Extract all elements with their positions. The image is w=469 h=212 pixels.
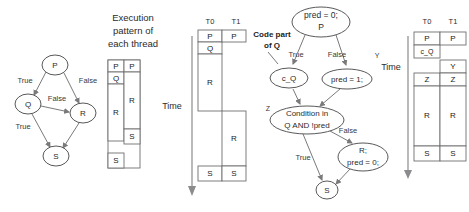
cell-t0-r: R [424, 111, 430, 120]
node-s-label: S [324, 186, 329, 195]
cell-t1-r: R [129, 96, 135, 105]
cell-t1-z: Z [451, 75, 456, 84]
time-axis-middle: Time [162, 36, 196, 196]
caption-line-1: Execution [112, 12, 154, 23]
edge-label-true-cq: True [288, 50, 303, 59]
cell-t1-y: Y [450, 62, 456, 71]
cell-t0-s: S [207, 169, 212, 178]
edge-cq-to-cond [293, 89, 300, 104]
edge-label-q-r: False [48, 94, 66, 103]
edge-r-to-s [336, 169, 350, 184]
annotation-line-2: of Q [264, 41, 280, 50]
node-r-label: R [80, 109, 86, 118]
column-header-t1: T1 [232, 17, 241, 26]
figure-canvas: P Q R S True False False True Execution … [0, 0, 469, 212]
node-pred-assign-label: pred = 1; [331, 75, 363, 84]
cell-t1-p: P [129, 62, 134, 71]
cell-t1-s: S [450, 149, 455, 158]
node-condition-line-2: Q AND !pred [284, 121, 329, 130]
time-axis-middle-arrow [188, 186, 196, 196]
cell-t0-q: Q [113, 74, 119, 83]
edge-label-y: Y [375, 52, 380, 59]
annotation-leader-line [268, 52, 278, 64]
node-p-line-2: P [318, 22, 324, 32]
edge-label-p-r: False [79, 76, 97, 85]
node-c-q-label: c_Q [282, 74, 297, 83]
node-s-label: S [53, 152, 58, 161]
edge-label-p-q: True [17, 76, 32, 85]
execution-pattern-table: P Q R S P R S [108, 60, 140, 168]
node-condition-line-1: Condition in [286, 109, 328, 118]
time-axis-right-label: Time [381, 62, 401, 72]
cell-t0-c-q: c_Q [421, 48, 434, 56]
edge-q-to-s [32, 114, 50, 147]
time-axis-right-arrow [404, 170, 412, 179]
panel-right-cfg: Code part of Q pred = 0; P c_Q pred = 1;… [253, 7, 388, 199]
cell-t0-p: P [113, 62, 118, 71]
cell-t0-p: P [207, 32, 212, 41]
panel-left-cfg: P Q R S True False False True [15, 55, 97, 166]
cell-t0-z: Z [425, 75, 430, 84]
node-p-label: P [52, 61, 57, 70]
diagram-svg: P Q R S True False False True Execution … [0, 0, 469, 212]
column-header-t0: T0 [423, 17, 432, 26]
edge-p-to-q [34, 72, 46, 95]
edge-label-q-s: True [15, 122, 30, 131]
time-axis-middle-label: Time [162, 101, 182, 111]
cell-t1-r: R [450, 111, 456, 120]
column-header-t1: T1 [449, 17, 458, 26]
predicated-schedule-table: T0 T1 P c_Q Z R S P Y Z R S [414, 17, 466, 161]
cell-t0-s: S [113, 156, 118, 165]
cell-t1-p: P [231, 32, 236, 41]
node-p-line-1: pred = 0; [304, 10, 338, 20]
cell-t1-s: S [231, 169, 236, 178]
edge-q-to-r [41, 106, 69, 112]
edge-r-to-s [63, 123, 79, 148]
interleaved-schedule-table: T0 T1 P Q R S P R S [198, 17, 246, 181]
column-header-t0: T0 [206, 17, 215, 26]
node-r-line-1: R; [359, 146, 367, 155]
edge-label-z: Z [266, 105, 271, 112]
cell-t0-r: R [207, 78, 213, 87]
caption-line-2: pattern of [113, 25, 153, 36]
annotation-line-1: Code part [253, 30, 291, 39]
cell-t0-p: P [424, 34, 429, 43]
node-q-label: Q [25, 100, 31, 109]
edge-label-false-pred1: False [328, 50, 346, 59]
cell-t0-s: S [424, 149, 429, 158]
execution-pattern-caption: Execution pattern of each thread [108, 12, 158, 49]
edge-pred1-to-cond [320, 89, 340, 106]
edge-label-true-s: True [295, 153, 310, 162]
edge-label-false-r: False [339, 126, 357, 135]
cell-t1-s: S [129, 132, 134, 141]
cell-t0-q: Q [207, 44, 213, 53]
caption-line-3: each thread [108, 38, 158, 49]
cell-t1-p: P [450, 34, 455, 43]
cell-t0-r: R [113, 108, 119, 117]
edge-p-to-r [64, 73, 79, 103]
node-r-line-2: pred = 0; [347, 158, 379, 167]
cell-t1-r: R [231, 134, 237, 143]
